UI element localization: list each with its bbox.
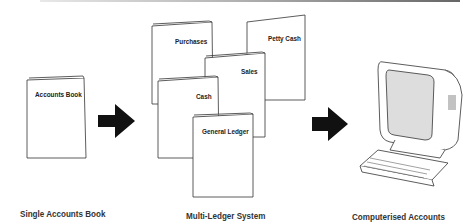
caption-single-accounts-book: Single Accounts Book xyxy=(20,208,105,219)
book-label-general-ledger: General Ledger xyxy=(202,127,249,136)
arrow-right-icon xyxy=(98,104,135,138)
book-label-sales: Sales xyxy=(241,67,258,76)
general-ledger-book-icon xyxy=(193,113,253,197)
caption-multi-ledger-system: Multi-Ledger System xyxy=(186,210,265,221)
computer-terminal-icon xyxy=(360,62,462,186)
book-label-accounts-book: Accounts Book xyxy=(35,90,82,99)
diagram-graphics xyxy=(0,0,475,223)
book-label-cash: Cash xyxy=(196,92,212,101)
accounts-book-icon xyxy=(27,76,86,158)
caption-computerised-accounts: Computerised Accounts xyxy=(352,211,445,222)
book-label-petty-cash: Petty Cash xyxy=(268,34,301,43)
book-label-purchases: Purchases xyxy=(175,37,207,46)
arrow-right-icon xyxy=(312,107,348,141)
